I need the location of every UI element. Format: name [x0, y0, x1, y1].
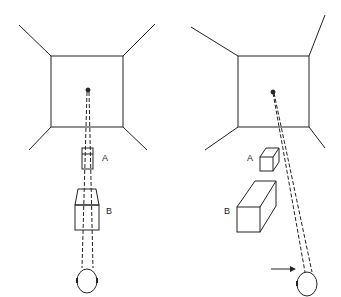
left-object-a: [82, 148, 93, 169]
right-object-a-depth: [260, 148, 279, 157]
diagram-canvas: A B A B: [0, 0, 341, 297]
left-observer-head-icon: [77, 269, 97, 293]
left-object-b: [75, 205, 99, 230]
right-object-a: [260, 157, 273, 171]
right-edge-top-right: [309, 15, 325, 56]
left-edge-top-right: [123, 24, 155, 56]
right-object-b-depth: [237, 181, 276, 207]
left-edge-bottom-left: [29, 127, 51, 150]
right-edge-top-left: [191, 27, 238, 56]
right-edge-bottom-left: [205, 127, 238, 150]
right-panel: [191, 15, 325, 296]
left-fixation-dot: [86, 88, 90, 92]
right-sight-line-1: [273, 93, 305, 272]
left-sight-line-1: [82, 92, 87, 268]
right-label-a: A: [247, 153, 253, 163]
right-edge-bottom-right: [309, 127, 325, 148]
right-sight-line-2: [274, 93, 312, 272]
right-arrow-icon: [290, 266, 296, 272]
left-edge-top-left: [19, 25, 51, 56]
right-object-b-side: [260, 181, 276, 232]
right-object-a-side: [273, 148, 279, 171]
left-object-b-top: [75, 189, 99, 205]
right-label-b: B: [224, 206, 230, 216]
right-observer-head-icon: [297, 272, 317, 296]
left-panel: [19, 24, 155, 293]
left-label-a: A: [102, 153, 108, 163]
left-sight-line-2: [89, 92, 93, 268]
right-object-b: [237, 207, 260, 232]
left-label-b: B: [106, 206, 112, 216]
left-edge-bottom-right: [123, 127, 147, 150]
